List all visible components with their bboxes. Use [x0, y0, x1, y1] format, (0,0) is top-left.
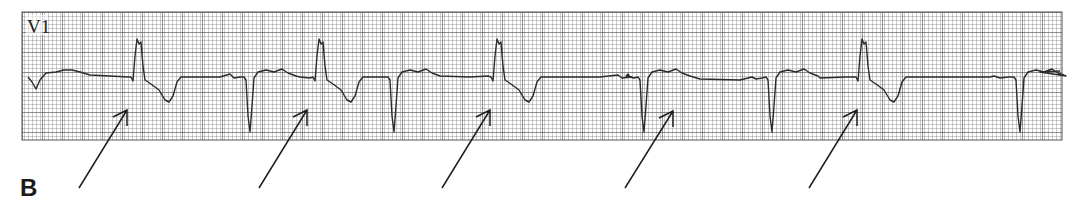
panel-label: B — [20, 174, 37, 201]
lead-label: V1 — [27, 16, 50, 37]
ecg-grid — [22, 12, 1062, 140]
ecg-figure: V1 B — [0, 0, 1076, 210]
